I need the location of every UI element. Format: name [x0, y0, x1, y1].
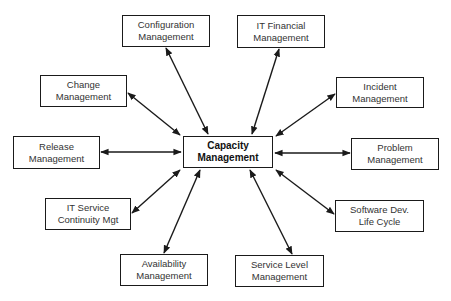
node-label-line2: Management	[197, 152, 258, 164]
node-label-line1: Problem	[377, 142, 412, 154]
edge-availability	[164, 170, 200, 253]
edge-it-service-continuity	[132, 170, 180, 213]
edge-change	[128, 93, 180, 135]
node-label-line2: Management	[56, 91, 111, 103]
edge-software-dev	[276, 170, 334, 214]
node-service-level-management: Service Level Management	[235, 255, 324, 287]
node-label-line1: Service Level	[251, 259, 308, 271]
node-configuration-management: Configuration Management	[122, 15, 210, 47]
node-label-line1: IT Service	[67, 202, 110, 214]
node-label-line2: Management	[367, 154, 422, 166]
node-label-line2: Management	[29, 153, 84, 165]
node-it-service-continuity: IT Service Continuity Mgt	[45, 198, 131, 230]
node-label-line1: Capacity	[207, 140, 249, 152]
edge-it-financial	[252, 49, 279, 134]
node-label-line1: IT Financial	[257, 20, 306, 32]
node-label-line1: Release	[39, 141, 74, 153]
capacity-management-diagram: Capacity Management Configuration Manage…	[0, 0, 451, 301]
node-label-line2: Management	[253, 32, 308, 44]
node-label-line2: Management	[252, 271, 307, 283]
node-label-line2: Management	[136, 270, 191, 282]
node-label-line2: Management	[352, 93, 407, 105]
edge-incident	[276, 94, 335, 136]
node-capacity-management: Capacity Management	[183, 136, 273, 168]
node-label-line2: Continuity Mgt	[58, 214, 119, 226]
node-label-line1: Incident	[363, 81, 396, 93]
edge-service-level	[250, 170, 292, 254]
node-label-line2: Management	[138, 31, 193, 43]
node-label-line1: Configuration	[138, 19, 195, 31]
node-label-line2: Life Cycle	[359, 216, 401, 228]
node-problem-management: Problem Management	[351, 138, 439, 170]
node-change-management: Change Management	[40, 75, 127, 107]
node-label-line1: Software Dev.	[350, 204, 409, 216]
node-availability-management: Availability Management	[120, 254, 208, 286]
node-release-management: Release Management	[13, 136, 100, 169]
node-it-financial-management: IT Financial Management	[237, 15, 325, 48]
node-software-dev-life-cycle: Software Dev. Life Cycle	[335, 200, 424, 232]
edge-configuration	[166, 48, 208, 134]
node-incident-management: Incident Management	[336, 77, 424, 108]
node-label-line1: Change	[67, 79, 100, 91]
node-label-line1: Availability	[142, 258, 187, 270]
